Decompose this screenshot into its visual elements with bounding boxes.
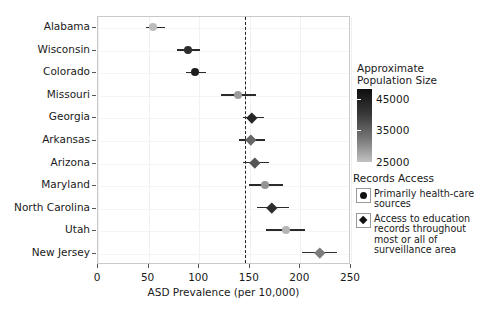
colorbar-tick bbox=[357, 162, 361, 163]
legend-item-label: Primarily health-care sources bbox=[374, 189, 474, 210]
y-axis-tick bbox=[92, 117, 96, 118]
y-axis-tick bbox=[92, 140, 96, 141]
y-axis-tick-label: Colorado bbox=[43, 66, 90, 77]
y-axis-tick-label: Wisconsin bbox=[38, 44, 90, 55]
gridline-horizontal bbox=[98, 209, 349, 210]
y-axis-tick-label: Arkansas bbox=[42, 134, 90, 145]
legend-circle-icon bbox=[360, 192, 367, 199]
x-axis-tick bbox=[350, 264, 351, 268]
chart-figure: AlabamaWisconsinColoradoMissouriGeorgiaA… bbox=[0, 0, 479, 315]
y-axis-tick-label: Missouri bbox=[47, 89, 90, 100]
gridline-horizontal bbox=[98, 51, 349, 52]
x-axis-tick-label: 200 bbox=[279, 271, 319, 283]
x-axis-tick-label: 150 bbox=[229, 271, 269, 283]
y-axis-tick-label: Alabama bbox=[44, 21, 90, 32]
gridline-vertical bbox=[199, 17, 200, 263]
gridline-horizontal bbox=[98, 254, 349, 255]
x-axis-tick-label: 250 bbox=[330, 271, 370, 283]
x-axis-tick bbox=[148, 264, 149, 268]
legend-title: Records Access bbox=[353, 172, 434, 184]
y-axis-tick-label: Arizona bbox=[51, 157, 90, 168]
y-axis-tick-label: Maryland bbox=[41, 179, 90, 190]
x-axis-title: ASD Prevalence (per 10,000) bbox=[97, 286, 350, 298]
gridline-horizontal bbox=[98, 186, 349, 187]
y-axis-tick-label: Georgia bbox=[49, 111, 90, 122]
y-axis-tick bbox=[92, 163, 96, 164]
legend-item-label: Access to education records throughout m… bbox=[374, 214, 470, 256]
y-axis-tick bbox=[92, 95, 96, 96]
y-axis-tick-label: North Carolina bbox=[14, 202, 90, 213]
y-axis-tick bbox=[92, 27, 96, 28]
y-axis-tick bbox=[92, 185, 96, 186]
gridline-horizontal bbox=[98, 231, 349, 232]
data-point-circle bbox=[184, 46, 192, 54]
gridline-horizontal bbox=[98, 164, 349, 165]
y-axis-tick bbox=[92, 253, 96, 254]
gridline-horizontal bbox=[98, 141, 349, 142]
colorbar-tick-label: 25000 bbox=[376, 156, 409, 168]
x-axis-tick bbox=[249, 264, 250, 268]
colorbar-gradient bbox=[357, 89, 372, 162]
x-axis-tick bbox=[299, 264, 300, 268]
gridline-horizontal bbox=[98, 118, 349, 119]
colorbar-tick-label: 35000 bbox=[376, 124, 409, 136]
colorbar-tick bbox=[357, 99, 361, 100]
data-point-circle bbox=[149, 23, 157, 31]
plot-area bbox=[97, 16, 350, 264]
y-axis-tick bbox=[92, 50, 96, 51]
gridline-vertical bbox=[149, 17, 150, 263]
x-axis-tick-label: 50 bbox=[128, 271, 168, 283]
gridline-vertical bbox=[98, 17, 99, 263]
gridline-vertical bbox=[351, 17, 352, 263]
gridline-horizontal bbox=[98, 73, 349, 74]
x-axis-tick-label: 100 bbox=[178, 271, 218, 283]
colorbar-tick-label: 45000 bbox=[376, 93, 409, 105]
x-axis-tick bbox=[97, 264, 98, 268]
y-axis-tick bbox=[92, 72, 96, 73]
gridline-horizontal bbox=[98, 28, 349, 29]
data-point-circle bbox=[234, 91, 242, 99]
colorbar-tick bbox=[357, 130, 361, 131]
colorbar-title: Approximate Population Size bbox=[357, 62, 437, 86]
x-axis-tick-label: 0 bbox=[77, 271, 117, 283]
y-axis-tick-label: New Jersey bbox=[32, 247, 90, 258]
y-axis-tick-label: Utah bbox=[65, 224, 90, 235]
gridline-vertical bbox=[300, 17, 301, 263]
y-axis-tick bbox=[92, 230, 96, 231]
y-axis-tick bbox=[92, 208, 96, 209]
x-axis-tick bbox=[198, 264, 199, 268]
gridline-horizontal bbox=[98, 96, 349, 97]
